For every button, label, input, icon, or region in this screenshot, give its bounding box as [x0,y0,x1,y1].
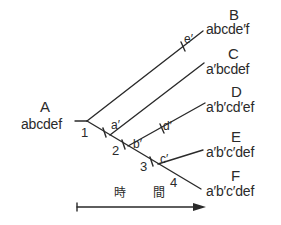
phylogeny-diagram: A abcdef B abcde′f C a′bcdef D a′b′cd′ef… [0,0,281,225]
node-c-sequence: a′bcdef [206,62,249,76]
node-d-sequence: a′b′cd′ef [206,100,254,114]
branch-point-2: 2 [112,144,119,157]
node-b-sequence: abcde′f [206,22,249,36]
node-f-letter: F [231,168,240,183]
node-f-sequence: a′b′c′def [206,184,254,198]
time-label-right: 間 [153,187,165,199]
mutation-c-prime: c′ [160,153,168,165]
node-e-letter: E [231,129,241,144]
mutation-a-prime: a′ [111,119,120,131]
time-label-left: 時 [114,187,126,199]
mutation-b-prime: b′ [133,138,142,150]
node-c-letter: C [228,46,239,61]
branch-c-line [110,63,204,135]
node-e-sequence: a′b′c′def [206,145,254,159]
branch-point-1: 1 [81,126,88,139]
node-d-letter: D [231,84,242,99]
tick-b-prime [122,140,125,149]
mutation-d-prime: d′ [163,120,172,132]
node-a-letter: A [40,99,50,114]
branch-point-3: 3 [140,160,147,173]
node-b-letter: B [229,7,239,22]
tick-c-prime [150,157,153,166]
branch-point-4: 4 [170,176,177,189]
node-a-sequence: abcdef [21,117,62,131]
arrow-head-icon [193,203,206,211]
mutation-e-prime: e′ [184,33,193,45]
